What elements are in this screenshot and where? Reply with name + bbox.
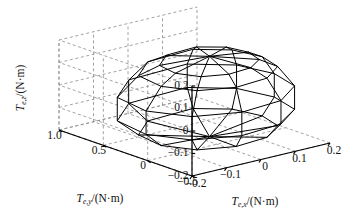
tick-label: 0.1 (174, 101, 189, 113)
tick-label: −0.1 (168, 146, 189, 158)
tick-label: 0.5 (92, 144, 107, 156)
mesh-edge (197, 47, 210, 56)
tick-label: 0.2 (327, 144, 342, 156)
mesh-edge (166, 56, 209, 57)
mesh-edge (160, 47, 260, 77)
mesh-edge (210, 137, 267, 138)
mesh-edge (193, 109, 209, 137)
tick-label: −0.1 (220, 168, 241, 180)
tick-label: 1.0 (47, 129, 62, 141)
z-axis-title: Te,z/(N·m) (14, 65, 28, 112)
x-axis-title: Te,x/(N·m) (232, 195, 279, 209)
tick-label: 0 (262, 160, 268, 172)
tick-label: 0.2 (174, 79, 189, 91)
tick-label: 0.1 (292, 152, 307, 164)
mesh-edge (259, 59, 294, 125)
tick-label: 0 (183, 124, 189, 136)
figure-container: −0.2−0.100.10.2−0.500.51.0−0.2−0.100.10.… (0, 0, 358, 222)
tick-label: 0 (140, 159, 146, 171)
tick-label: −0.2 (186, 177, 207, 189)
surface-plot-svg: −0.2−0.100.10.2−0.500.51.0−0.2−0.100.10.… (0, 0, 358, 222)
y-axis-title: Te,y/(N·m) (77, 192, 124, 206)
mesh-layer (117, 47, 294, 150)
mesh-edge (148, 121, 210, 136)
